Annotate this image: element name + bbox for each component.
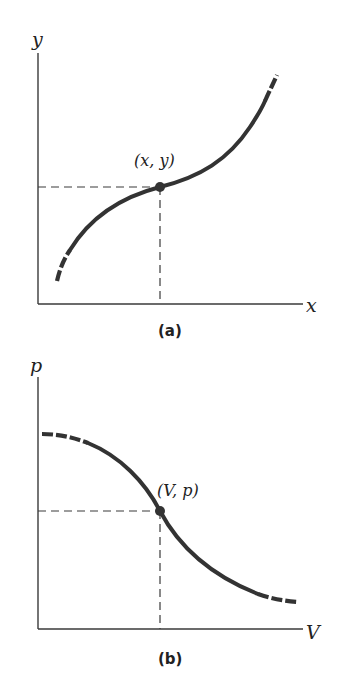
y-axis-label: y: [31, 28, 43, 50]
panel-caption: (b): [158, 650, 182, 668]
curve-dashed-start: [57, 250, 70, 281]
x-axis-label: x: [306, 294, 317, 316]
x-axis-label: V: [306, 621, 322, 643]
curve: [70, 101, 265, 250]
y-axis-label: p: [30, 354, 42, 376]
point-marker: [155, 182, 165, 192]
point-label: (V, p): [157, 481, 199, 500]
point-marker: [155, 506, 165, 516]
point-label: (x, y): [134, 151, 175, 170]
figure: y x (x, y) (a) p V (V, p) (b): [0, 0, 343, 691]
curve-dashed-end: [265, 75, 277, 101]
curve-dashed-end: [258, 594, 298, 602]
curve-dashed-start: [42, 434, 88, 443]
curve: [88, 443, 258, 594]
panel-b: p V (V, p) (b): [30, 354, 322, 668]
panel-a: y x (x, y) (a): [31, 28, 317, 340]
panel-caption: (a): [158, 322, 182, 340]
